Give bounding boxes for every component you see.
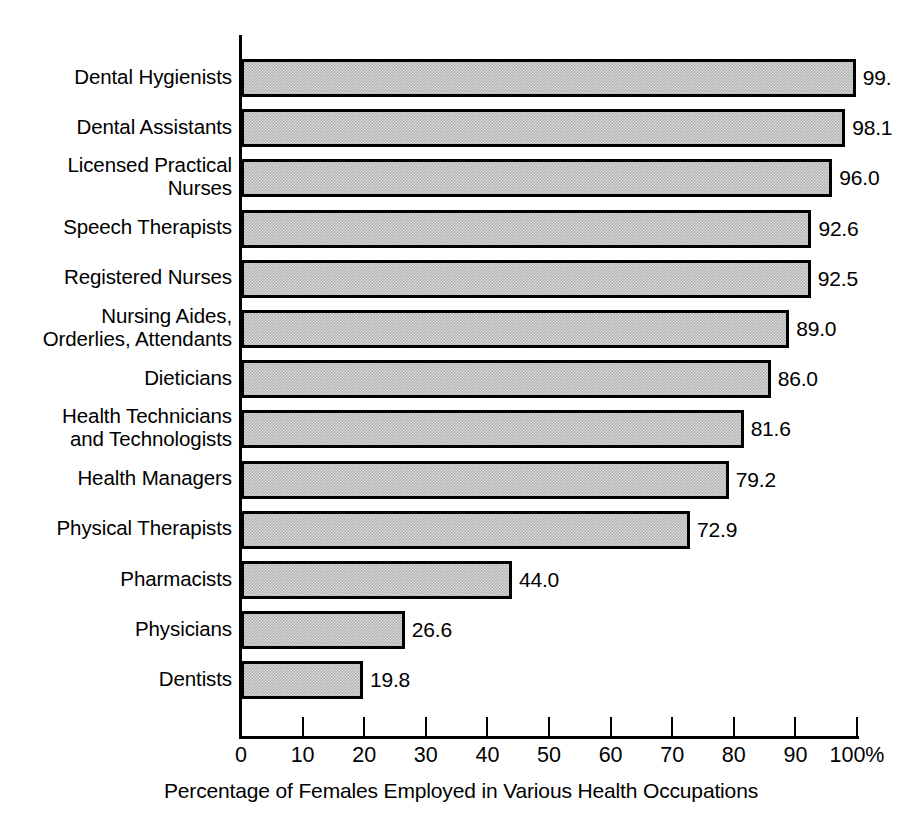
x-axis-tick-mark bbox=[733, 717, 735, 736]
bar bbox=[241, 59, 856, 97]
bar bbox=[241, 561, 512, 599]
category-label: Health Managers bbox=[77, 466, 232, 489]
x-axis-line bbox=[239, 736, 859, 739]
bar-value-label: 89.0 bbox=[796, 310, 836, 348]
bar-value-label: 19.8 bbox=[370, 661, 410, 699]
x-axis-tick-label: 80 bbox=[722, 742, 746, 768]
bar bbox=[241, 661, 363, 699]
bar-value-label: 26.6 bbox=[412, 611, 452, 649]
bar-value-label: 44.0 bbox=[519, 561, 559, 599]
x-axis-tick-mark bbox=[610, 717, 612, 736]
x-axis-tick-label: 0 bbox=[235, 742, 247, 768]
category-label: Speech Therapists bbox=[63, 215, 232, 238]
x-axis-tick-mark bbox=[425, 717, 427, 736]
x-axis-tick-mark bbox=[548, 717, 550, 736]
category-label: Health Technicians and Technologists bbox=[62, 404, 232, 450]
bar bbox=[241, 159, 832, 197]
bar-value-label: 99. bbox=[863, 59, 892, 97]
bar bbox=[241, 511, 690, 549]
bar bbox=[241, 109, 845, 147]
x-axis-tick-mark bbox=[856, 717, 858, 736]
category-label: Physical Therapists bbox=[57, 516, 232, 539]
x-axis-tick-label: 50 bbox=[537, 742, 561, 768]
category-label: Dental Hygienists bbox=[74, 65, 232, 88]
x-axis-tick-label: 10 bbox=[291, 742, 315, 768]
bar-value-label: 79.2 bbox=[736, 461, 776, 499]
bar-value-label: 72.9 bbox=[697, 511, 737, 549]
x-axis-tick-label: 20 bbox=[352, 742, 376, 768]
x-axis-tick-label: 40 bbox=[475, 742, 499, 768]
bar bbox=[241, 410, 744, 448]
category-label: Registered Nurses bbox=[64, 265, 232, 288]
bar-value-label: 81.6 bbox=[751, 410, 791, 448]
category-label: Licensed Practical Nurses bbox=[67, 153, 232, 199]
category-label: Dentists bbox=[159, 667, 232, 690]
bar-value-label: 86.0 bbox=[778, 360, 818, 398]
category-label: Dental Assistants bbox=[76, 115, 232, 138]
bar bbox=[241, 210, 811, 248]
x-axis-tick-mark bbox=[794, 717, 796, 736]
bar-value-label: 92.6 bbox=[818, 210, 858, 248]
bar-value-label: 96.0 bbox=[839, 159, 879, 197]
bar bbox=[241, 310, 789, 348]
x-axis-tick-mark bbox=[302, 717, 304, 736]
x-axis-tick-mark bbox=[363, 717, 365, 736]
bar bbox=[241, 260, 811, 298]
category-label: Dieticians bbox=[144, 366, 232, 389]
bar bbox=[241, 461, 729, 499]
bar-value-label: 98.1 bbox=[852, 109, 892, 147]
x-axis-tick-label: 70 bbox=[660, 742, 684, 768]
x-axis-title: Percentage of Females Employed in Variou… bbox=[0, 779, 922, 803]
x-axis-tick-label: 30 bbox=[414, 742, 438, 768]
x-axis-tick-label: 100% bbox=[830, 742, 885, 768]
x-axis-tick-mark bbox=[486, 717, 488, 736]
x-axis-tick-label: 60 bbox=[599, 742, 623, 768]
bar-value-label: 92.5 bbox=[818, 260, 858, 298]
bar bbox=[241, 360, 771, 398]
bar-chart: Dental HygienistsDental AssistantsLicens… bbox=[0, 0, 922, 835]
x-axis-tick-mark bbox=[671, 717, 673, 736]
category-label: Physicians bbox=[135, 617, 232, 640]
x-axis-tick-label: 90 bbox=[783, 742, 807, 768]
category-label: Pharmacists bbox=[120, 567, 232, 590]
x-axis-tick-mark bbox=[240, 717, 242, 736]
bar bbox=[241, 611, 405, 649]
category-label: Nursing Aides, Orderlies, Attendants bbox=[43, 304, 232, 350]
